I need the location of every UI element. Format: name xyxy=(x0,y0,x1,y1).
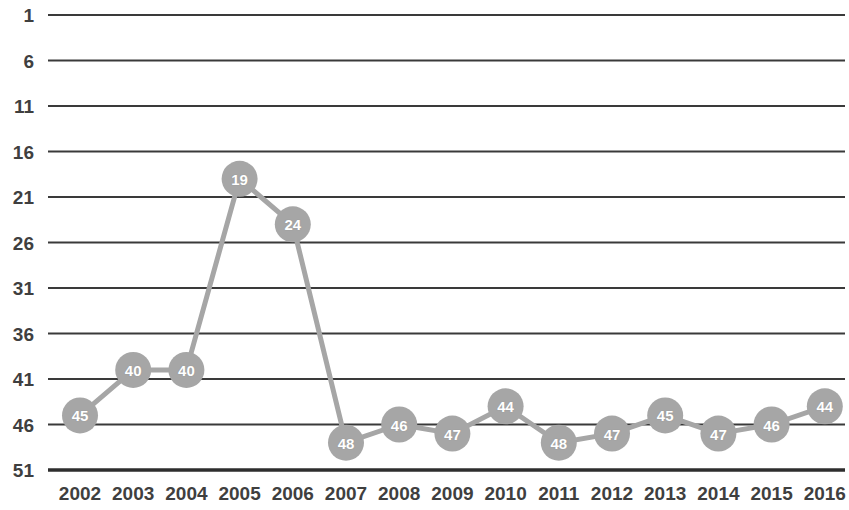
y-axis-tick-label: 46 xyxy=(0,416,34,435)
y-axis-tick-label: 31 xyxy=(0,279,34,298)
data-point-value-label: 44 xyxy=(805,399,845,414)
series-line xyxy=(80,179,825,443)
y-axis-tick-label: 41 xyxy=(0,370,34,389)
marker-group xyxy=(62,161,843,461)
x-axis-tick-label: 2008 xyxy=(369,484,429,503)
x-axis-tick-label: 2004 xyxy=(156,484,216,503)
data-point-value-label: 40 xyxy=(113,363,153,378)
data-point-value-label: 45 xyxy=(60,408,100,423)
x-axis-tick-label: 2010 xyxy=(476,484,536,503)
y-axis-tick-label: 1 xyxy=(0,6,34,25)
y-axis-tick-label: 21 xyxy=(0,188,34,207)
y-axis-tick-label: 6 xyxy=(0,52,34,71)
y-axis-tick-label: 11 xyxy=(0,97,34,116)
data-point-value-label: 48 xyxy=(326,436,366,451)
data-point-value-label: 45 xyxy=(645,408,685,423)
x-axis-tick-label: 2011 xyxy=(529,484,589,503)
y-axis-tick-label: 36 xyxy=(0,325,34,344)
x-axis-tick-label: 2013 xyxy=(635,484,695,503)
x-axis-tick-label: 2016 xyxy=(795,484,849,503)
x-axis-tick-label: 2002 xyxy=(50,484,110,503)
x-axis-tick-label: 2009 xyxy=(422,484,482,503)
x-axis-tick-label: 2007 xyxy=(316,484,376,503)
x-axis-tick-label: 2003 xyxy=(103,484,163,503)
data-point-value-label: 19 xyxy=(220,172,260,187)
y-axis-tick-label: 16 xyxy=(0,143,34,162)
x-axis-tick-label: 2014 xyxy=(688,484,748,503)
data-point-value-label: 47 xyxy=(592,427,632,442)
x-axis-tick-label: 2012 xyxy=(582,484,642,503)
x-axis-tick-label: 2006 xyxy=(263,484,323,503)
data-point-value-label: 24 xyxy=(273,217,313,232)
y-axis-tick-label: 26 xyxy=(0,234,34,253)
data-point-value-label: 40 xyxy=(166,363,206,378)
data-point-value-label: 47 xyxy=(432,427,472,442)
data-point-value-label: 44 xyxy=(486,399,526,414)
x-axis-tick-label: 2015 xyxy=(742,484,802,503)
data-point-value-label: 46 xyxy=(379,418,419,433)
y-axis-tick-label: 51 xyxy=(0,461,34,480)
x-axis-tick-label: 2005 xyxy=(210,484,270,503)
gridlines-group xyxy=(48,15,845,470)
data-point-value-label: 48 xyxy=(539,436,579,451)
series-polyline xyxy=(80,179,825,443)
data-point-value-label: 47 xyxy=(698,427,738,442)
data-point-value-label: 46 xyxy=(752,418,792,433)
rank-line-chart: 16111621263136414651 2002200320042005200… xyxy=(0,0,849,510)
